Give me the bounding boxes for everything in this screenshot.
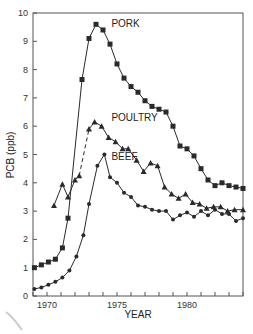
- y-tick-label: 7: [23, 93, 28, 103]
- circle-marker: [95, 164, 99, 168]
- circle-marker: [143, 205, 147, 209]
- square-marker: [199, 166, 204, 171]
- series-poultry: [51, 119, 246, 214]
- data-series: [32, 22, 246, 291]
- circle-marker: [178, 213, 182, 217]
- square-marker: [192, 153, 197, 158]
- series-segment: [89, 166, 97, 204]
- circle-marker: [122, 191, 126, 195]
- circle-marker: [171, 218, 175, 222]
- series-segment: [158, 166, 165, 187]
- circle-marker: [102, 153, 106, 157]
- series-segment: [68, 80, 82, 219]
- square-marker: [241, 186, 246, 191]
- circle-marker: [32, 287, 36, 291]
- square-marker: [234, 185, 239, 190]
- y-tick-label: 4: [23, 178, 28, 188]
- series-segment: [83, 204, 89, 235]
- circle-marker: [213, 208, 217, 212]
- square-marker: [220, 180, 225, 185]
- series-label-beef: BEEF: [111, 151, 137, 162]
- series-segment: [110, 44, 117, 64]
- circle-marker: [227, 212, 231, 216]
- triangle-marker: [162, 184, 168, 190]
- square-marker: [185, 146, 190, 151]
- square-marker: [206, 177, 211, 182]
- square-marker: [164, 110, 169, 115]
- square-marker: [87, 36, 92, 41]
- circle-marker: [74, 254, 78, 258]
- series-label-pork: PORK: [111, 18, 140, 29]
- triangle-marker: [51, 202, 57, 208]
- y-tick-label: 10: [18, 8, 28, 18]
- y-tick-label: 3: [23, 206, 28, 216]
- square-marker: [66, 216, 71, 221]
- triangle-marker: [106, 135, 112, 141]
- circle-marker: [220, 212, 224, 216]
- y-axis-ticks: 012345678910: [18, 8, 37, 301]
- y-tick-label: 8: [23, 65, 28, 75]
- circle-marker: [206, 213, 210, 217]
- y-axis-title: PCB (ppb): [5, 132, 16, 179]
- plot-frame: [33, 13, 243, 296]
- square-marker: [150, 104, 155, 109]
- triangle-marker: [183, 191, 189, 197]
- square-marker: [115, 61, 120, 66]
- pcb-line-chart: 197019751980 012345678910 PORKPOULTRYBEE…: [0, 0, 253, 334]
- series-segment: [173, 126, 180, 146]
- square-marker: [122, 76, 127, 81]
- circle-marker: [129, 195, 133, 199]
- triangle-marker: [113, 139, 119, 145]
- circle-marker: [157, 209, 161, 213]
- triangle-marker: [155, 163, 161, 169]
- square-marker: [32, 265, 37, 270]
- square-marker: [46, 260, 51, 265]
- square-marker: [178, 144, 183, 149]
- circle-marker: [46, 283, 50, 287]
- series-segment: [54, 184, 62, 205]
- y-tick-label: 9: [23, 36, 28, 46]
- x-axis-title: YEAR: [124, 309, 151, 320]
- square-marker: [60, 245, 65, 250]
- square-marker: [143, 98, 148, 103]
- scan-smudge-decoration: [6, 312, 22, 330]
- circle-marker: [234, 219, 238, 223]
- plot-border: [33, 13, 243, 296]
- triangle-marker: [76, 173, 82, 179]
- circle-marker: [185, 211, 189, 215]
- x-tick-label: 1970: [37, 300, 57, 310]
- circle-marker: [67, 269, 71, 273]
- square-marker: [129, 84, 134, 89]
- triangle-marker: [59, 181, 65, 187]
- circle-marker: [60, 276, 64, 280]
- triangle-marker: [148, 160, 154, 166]
- series-beef: [32, 153, 245, 291]
- circle-marker: [150, 208, 154, 212]
- circle-marker: [115, 181, 119, 185]
- y-tick-label: 5: [23, 150, 28, 160]
- series-segment: [79, 129, 89, 176]
- square-marker: [227, 183, 232, 188]
- circle-marker: [81, 233, 85, 237]
- series-segment: [62, 218, 68, 248]
- square-marker: [39, 262, 44, 267]
- series-segment: [104, 155, 110, 178]
- circle-marker: [241, 216, 245, 220]
- triangle-marker: [92, 119, 98, 125]
- series-label-poultry: POULTRY: [111, 112, 158, 123]
- circle-marker: [39, 286, 43, 290]
- triangle-marker: [99, 123, 105, 129]
- circle-marker: [164, 209, 168, 213]
- square-marker: [108, 42, 113, 47]
- circle-marker: [87, 202, 91, 206]
- square-marker: [136, 90, 141, 95]
- series-pork: [32, 22, 246, 270]
- square-marker: [80, 77, 85, 82]
- square-marker: [101, 27, 106, 32]
- circle-marker: [192, 215, 196, 219]
- circle-marker: [108, 175, 112, 179]
- x-tick-label: 1980: [177, 300, 197, 310]
- series-segment: [82, 38, 89, 79]
- square-marker: [171, 124, 176, 129]
- square-marker: [53, 257, 58, 262]
